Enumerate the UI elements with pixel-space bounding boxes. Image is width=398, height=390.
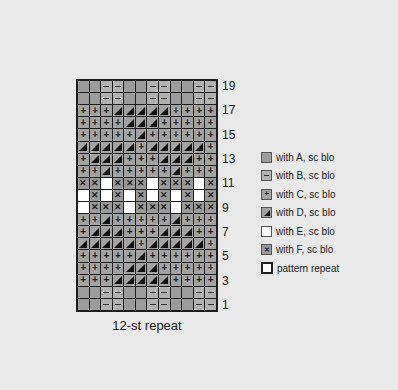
plus-cell: + bbox=[182, 105, 193, 116]
minus-cell bbox=[147, 81, 158, 92]
triangle-cell bbox=[136, 105, 147, 116]
swatch-a-icon bbox=[261, 152, 272, 163]
x-cell: ✕ bbox=[205, 190, 216, 201]
plus-cell: + bbox=[136, 214, 147, 225]
row-number bbox=[222, 215, 242, 225]
row-number: 17 bbox=[222, 103, 242, 117]
triangle-cell bbox=[171, 154, 182, 165]
white-cell bbox=[78, 190, 89, 201]
plus-cell: + bbox=[113, 263, 124, 274]
plus-cell: + bbox=[124, 129, 135, 140]
triangle-cell bbox=[101, 226, 112, 237]
minus-cell bbox=[194, 299, 205, 310]
x-cell: ✕ bbox=[113, 190, 124, 201]
legend-label: with E, sc blo bbox=[276, 226, 335, 237]
x-cell: ✕ bbox=[136, 202, 147, 213]
plus-cell: + bbox=[159, 117, 170, 128]
plus-cell: + bbox=[136, 238, 147, 249]
x-cell: ✕ bbox=[90, 190, 101, 201]
row-number: 7 bbox=[222, 225, 242, 239]
x-cell: ✕ bbox=[205, 178, 216, 189]
x-cell: ✕ bbox=[90, 202, 101, 213]
row-number: 9 bbox=[222, 201, 242, 215]
x-cell: ✕ bbox=[136, 190, 147, 201]
plus-cell: + bbox=[205, 250, 216, 261]
plain-cell bbox=[136, 299, 147, 310]
row-number: 19 bbox=[222, 79, 242, 93]
plus-cell: + bbox=[78, 166, 89, 177]
triangle-cell bbox=[147, 105, 158, 116]
row-number bbox=[222, 117, 242, 127]
plain-cell bbox=[124, 287, 135, 298]
plus-cell: + bbox=[124, 250, 135, 261]
triangle-cell bbox=[113, 154, 124, 165]
triangle-cell bbox=[101, 214, 112, 225]
minus-cell bbox=[101, 299, 112, 310]
triangle-cell bbox=[182, 238, 193, 249]
plus-cell: + bbox=[124, 214, 135, 225]
plus-cell: + bbox=[78, 263, 89, 274]
plus-cell: + bbox=[205, 129, 216, 140]
legend-item-d: with D, sc blo bbox=[261, 204, 339, 223]
row-number: 13 bbox=[222, 152, 242, 166]
triangle-cell bbox=[113, 238, 124, 249]
plus-cell: + bbox=[124, 154, 135, 165]
x-cell: ✕ bbox=[182, 178, 193, 189]
white-cell bbox=[194, 178, 205, 189]
triangle-cell bbox=[147, 263, 158, 274]
x-cell: ✕ bbox=[90, 178, 101, 189]
plus-cell: + bbox=[194, 250, 205, 261]
legend-item-repeat: pattern repeat bbox=[261, 259, 339, 278]
minus-cell bbox=[101, 81, 112, 92]
plain-cell bbox=[182, 93, 193, 104]
triangle-cell bbox=[159, 142, 170, 153]
plus-cell: + bbox=[205, 154, 216, 165]
plus-cell: + bbox=[205, 226, 216, 237]
x-cell: ✕ bbox=[101, 202, 112, 213]
plus-cell: + bbox=[78, 250, 89, 261]
triangle-cell bbox=[136, 263, 147, 274]
pattern-repeat-icon bbox=[261, 262, 273, 274]
plus-cell: + bbox=[90, 250, 101, 261]
triangle-cell bbox=[147, 238, 158, 249]
row-number bbox=[222, 263, 242, 273]
plus-cell: + bbox=[101, 117, 112, 128]
plain-cell bbox=[90, 287, 101, 298]
plain-cell bbox=[124, 93, 135, 104]
legend: with A, sc blo with B, sc blo + with C, … bbox=[261, 148, 339, 278]
plus-cell: + bbox=[147, 129, 158, 140]
minus-cell bbox=[113, 93, 124, 104]
legend-label: with D, sc blo bbox=[276, 207, 335, 218]
plus-cell: + bbox=[113, 117, 124, 128]
triangle-cell bbox=[136, 250, 147, 261]
plus-cell: + bbox=[136, 142, 147, 153]
triangle-cell bbox=[171, 238, 182, 249]
triangle-cell bbox=[171, 226, 182, 237]
x-icon: ✕ bbox=[261, 244, 272, 255]
plus-cell: + bbox=[159, 250, 170, 261]
white-cell bbox=[147, 190, 158, 201]
plus-cell: + bbox=[194, 117, 205, 128]
white-cell bbox=[101, 190, 112, 201]
plus-cell: + bbox=[194, 275, 205, 286]
x-cell: ✕ bbox=[147, 202, 158, 213]
minus-cell bbox=[194, 81, 205, 92]
minus-cell bbox=[101, 93, 112, 104]
triangle-cell bbox=[113, 226, 124, 237]
plain-cell bbox=[171, 93, 182, 104]
plus-cell: + bbox=[124, 166, 135, 177]
plus-cell: + bbox=[90, 117, 101, 128]
plain-cell bbox=[90, 93, 101, 104]
plain-cell bbox=[136, 81, 147, 92]
triangle-cell bbox=[171, 214, 182, 225]
triangle-cell bbox=[90, 226, 101, 237]
minus-cell bbox=[194, 93, 205, 104]
plus-cell: + bbox=[171, 275, 182, 286]
triangle-cell bbox=[182, 226, 193, 237]
triangle-cell bbox=[136, 129, 147, 140]
plus-cell: + bbox=[147, 166, 158, 177]
plus-cell: + bbox=[147, 154, 158, 165]
plus-cell: + bbox=[182, 263, 193, 274]
plus-cell: + bbox=[205, 105, 216, 116]
plus-cell: + bbox=[147, 214, 158, 225]
